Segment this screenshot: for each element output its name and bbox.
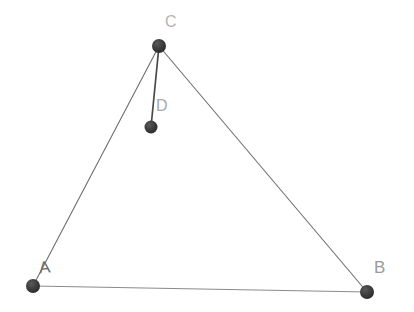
vertex-label-c: C <box>165 14 177 30</box>
vertex-label-b: B <box>374 259 386 276</box>
vertex-label-a: A <box>38 258 52 276</box>
node-group <box>26 39 374 299</box>
node-c[interactable] <box>152 39 166 53</box>
edge-group <box>33 46 367 292</box>
edge-c-b <box>159 46 367 292</box>
edge-a-c <box>33 46 159 286</box>
node-d[interactable] <box>145 121 158 134</box>
geometry-diagram <box>0 0 414 312</box>
node-b[interactable] <box>360 285 374 299</box>
vertex-label-d: D <box>156 98 168 114</box>
node-a[interactable] <box>26 279 40 293</box>
diagram-canvas: A B C D <box>0 0 414 312</box>
edge-a-b <box>33 286 367 292</box>
